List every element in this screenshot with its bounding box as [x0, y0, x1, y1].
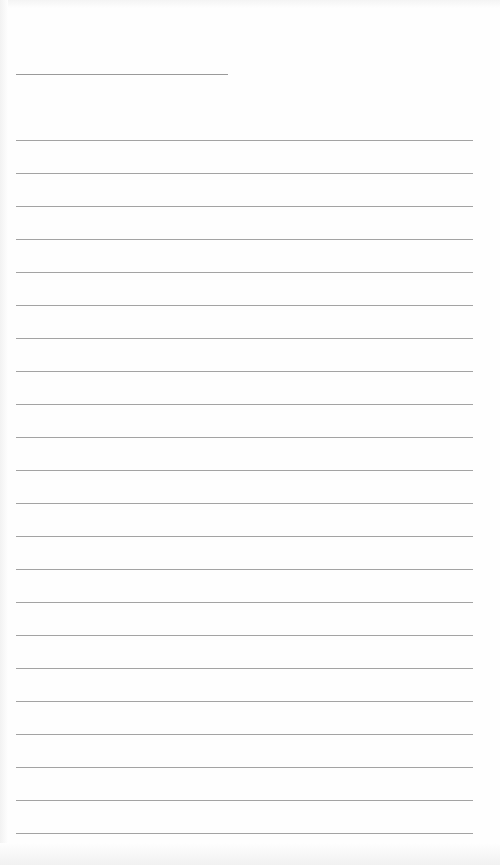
ruled-line [16, 173, 473, 174]
ruled-line [16, 734, 473, 735]
ruled-line [16, 239, 473, 240]
ruled-line [16, 503, 473, 504]
page-left-shadow [0, 0, 8, 865]
ruled-line [16, 371, 473, 372]
ruled-line [16, 272, 473, 273]
page-top-shadow [0, 0, 500, 8]
ruled-line [16, 701, 473, 702]
page-bottom-shadow [0, 843, 500, 865]
ruled-line [16, 602, 473, 603]
ruled-line [16, 668, 473, 669]
ruled-line [16, 338, 473, 339]
ruled-line [16, 470, 473, 471]
ruled-line [16, 635, 473, 636]
ruled-line [16, 569, 473, 570]
lined-paper-page [0, 0, 500, 865]
ruled-line [16, 305, 473, 306]
ruled-line [16, 404, 473, 405]
ruled-line [16, 206, 473, 207]
ruled-line [16, 437, 473, 438]
ruled-line [16, 536, 473, 537]
ruled-line [16, 767, 473, 768]
ruled-line [16, 800, 473, 801]
ruled-line [16, 833, 473, 834]
title-line [16, 74, 228, 75]
ruled-line [16, 140, 473, 141]
